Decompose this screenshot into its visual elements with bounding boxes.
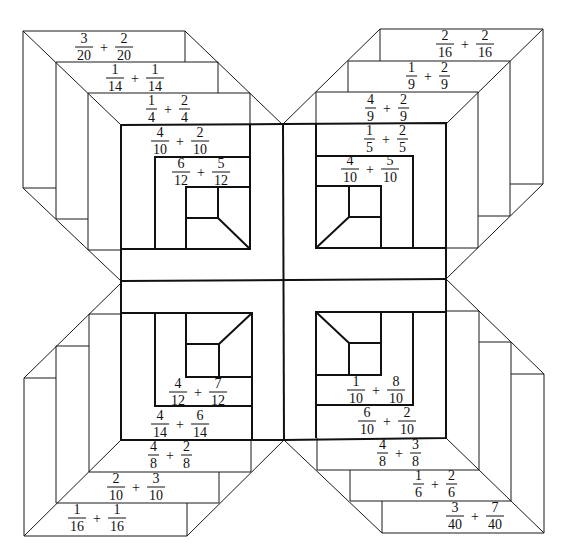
- plus-sign: +: [194, 384, 202, 400]
- plus-sign: +: [383, 100, 391, 116]
- fraction-a: 216: [436, 29, 454, 60]
- fraction-a: 340: [446, 501, 464, 532]
- plus-sign: +: [197, 164, 205, 180]
- fraction-label: 116 + 116: [68, 503, 126, 534]
- fraction-label: 410 + 510: [341, 154, 399, 185]
- fraction-b: 24: [179, 94, 190, 125]
- fraction-a: 414: [151, 409, 169, 440]
- fraction-a: 116: [68, 503, 86, 534]
- fraction-a: 320: [75, 32, 93, 63]
- plus-sign: +: [131, 70, 139, 86]
- fraction-a: 48: [377, 438, 388, 469]
- fraction-spiral-diagram: 320 + 220 114 + 114 14 + 24 410 + 210 61…: [0, 0, 568, 560]
- fraction-b: 38: [410, 438, 421, 469]
- fraction-b: 510: [381, 154, 399, 185]
- fraction-b: 114: [146, 63, 164, 94]
- fraction-a: 110: [347, 375, 365, 406]
- fraction-label: 48 + 38: [377, 438, 421, 469]
- fraction-b: 614: [191, 409, 209, 440]
- diagram-lines: [0, 0, 568, 560]
- plus-sign: +: [366, 161, 374, 177]
- plus-sign: +: [176, 133, 184, 149]
- plus-sign: +: [100, 39, 108, 55]
- plus-sign: +: [93, 510, 101, 526]
- plus-sign: +: [382, 131, 390, 147]
- fraction-b: 810: [387, 375, 405, 406]
- fraction-a: 210: [107, 472, 125, 503]
- plus-sign: +: [164, 101, 172, 117]
- fraction-label: 110 + 810: [347, 375, 405, 406]
- plus-sign: +: [424, 68, 432, 84]
- fraction-a: 412: [169, 377, 187, 408]
- fraction-b: 116: [108, 503, 126, 534]
- plus-sign: +: [471, 508, 479, 524]
- plus-sign: +: [176, 416, 184, 432]
- fraction-b: 310: [147, 472, 165, 503]
- fraction-a: 610: [358, 406, 376, 437]
- fraction-a: 410: [341, 154, 359, 185]
- fraction-b: 216: [476, 29, 494, 60]
- fraction-a: 612: [172, 157, 190, 188]
- fraction-a: 410: [151, 126, 169, 157]
- fraction-label: 340 + 740: [446, 501, 504, 532]
- fraction-a: 16: [413, 469, 424, 500]
- plus-sign: +: [431, 476, 439, 492]
- fraction-label: 410 + 210: [151, 126, 209, 157]
- fraction-label: 49 + 29: [365, 93, 409, 124]
- fraction-b: 512: [212, 157, 230, 188]
- fraction-b: 210: [191, 126, 209, 157]
- fraction-a: 114: [106, 63, 124, 94]
- fraction-label: 320 + 220: [75, 32, 133, 63]
- fraction-b: 220: [115, 32, 133, 63]
- fraction-b: 740: [486, 501, 504, 532]
- fraction-b: 29: [398, 93, 409, 124]
- plus-sign: +: [132, 479, 140, 495]
- fraction-label: 114 + 114: [106, 63, 164, 94]
- fraction-label: 16 + 26: [413, 469, 457, 500]
- fraction-b: 26: [446, 469, 457, 500]
- plus-sign: +: [166, 447, 174, 463]
- fraction-label: 15 + 25: [364, 124, 408, 155]
- plus-sign: +: [372, 382, 380, 398]
- plus-sign: +: [383, 413, 391, 429]
- fraction-a: 19: [406, 61, 417, 92]
- plus-sign: +: [395, 445, 403, 461]
- fraction-label: 610 + 210: [358, 406, 416, 437]
- fraction-b: 28: [181, 440, 192, 471]
- fraction-label: 414 + 614: [151, 409, 209, 440]
- fraction-label: 19 + 29: [406, 61, 450, 92]
- fraction-b: 210: [398, 406, 416, 437]
- fraction-label: 48 + 28: [148, 440, 192, 471]
- fraction-a: 14: [146, 94, 157, 125]
- fraction-label: 412 + 712: [169, 377, 227, 408]
- fraction-label: 14 + 24: [146, 94, 190, 125]
- fraction-a: 15: [364, 124, 375, 155]
- fraction-label: 210 + 310: [107, 472, 165, 503]
- plus-sign: +: [461, 36, 469, 52]
- fraction-a: 49: [365, 93, 376, 124]
- fraction-b: 25: [397, 124, 408, 155]
- fraction-b: 712: [209, 377, 227, 408]
- fraction-label: 216 + 216: [436, 29, 494, 60]
- fraction-label: 612 + 512: [172, 157, 230, 188]
- fraction-a: 48: [148, 440, 159, 471]
- fraction-b: 29: [439, 61, 450, 92]
